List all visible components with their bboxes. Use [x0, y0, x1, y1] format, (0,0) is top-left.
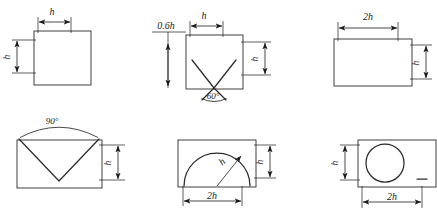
- height-label: h: [103, 160, 113, 165]
- height-label: h: [255, 159, 265, 164]
- width-dimension: 2h: [338, 11, 398, 41]
- height-label: h: [330, 160, 340, 165]
- angle-label: 90°: [46, 116, 59, 126]
- inscribed-circle: [366, 144, 404, 182]
- panel-vee-90: 90° h: [17, 116, 125, 188]
- width-label: 2h: [207, 190, 217, 201]
- height-label: h: [250, 56, 260, 61]
- panel-square-v-60: 60° 0.6h h: [152, 10, 271, 102]
- width-dimension: 2h: [183, 186, 242, 206]
- panel-wide-2h: 2h h: [334, 11, 432, 86]
- offset-dimension: 0.6h: [152, 20, 186, 88]
- angle-label: 60°: [207, 91, 220, 101]
- figure-root: h h 60°: [0, 0, 437, 216]
- height-dimension: h: [410, 45, 432, 79]
- height-dimension: h: [2, 40, 36, 73]
- technical-diagram: h h 60°: [0, 0, 437, 216]
- panel-circle-2h: h 2h: [330, 140, 436, 208]
- height-label: h: [411, 60, 421, 65]
- radius-dimension: h: [216, 156, 241, 186]
- width-label: h: [50, 6, 55, 17]
- width-dimension: 2h: [362, 186, 422, 208]
- height-label: h: [2, 54, 12, 59]
- panel-square-h: h h: [2, 6, 91, 85]
- width-label: 2h: [363, 11, 373, 22]
- height-dimension: h: [241, 42, 271, 75]
- width-label: 2h: [387, 191, 397, 202]
- angle-annotation: 90°: [20, 116, 98, 138]
- vee-overlay: [19, 139, 99, 181]
- width-label: h: [202, 10, 207, 21]
- mesh-area: [358, 140, 436, 187]
- height-dimension: h: [254, 145, 276, 178]
- height-dimension: h: [330, 145, 360, 180]
- circle-overlay: [366, 144, 404, 182]
- mesh-area: [34, 31, 91, 85]
- radius-label: h: [216, 156, 227, 168]
- panel-arc-2h: h 2h h: [178, 140, 276, 206]
- height-dimension: h: [99, 145, 125, 180]
- offset-label: 0.6h: [157, 20, 175, 31]
- width-dimension: h: [38, 6, 71, 33]
- width-dimension: h: [190, 10, 223, 37]
- mesh-area: [178, 140, 256, 187]
- mesh-area: [334, 39, 412, 86]
